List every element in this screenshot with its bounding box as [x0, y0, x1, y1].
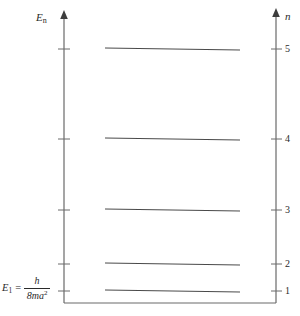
formula-equals-sign: =: [14, 283, 22, 294]
energy-level-line-5: [105, 48, 240, 50]
energy-axis-arrowhead: [60, 10, 68, 19]
quantum-number-tick-label-4: 4: [285, 134, 290, 144]
energy-level-line-4: [105, 138, 240, 140]
diagram-canvas: [0, 0, 300, 316]
quantum-number-tick-label-1: 1: [285, 286, 290, 296]
energy-level-line-2: [105, 263, 240, 265]
quantum-number-tick-label-2: 2: [285, 259, 290, 269]
energy-axis-label: En: [36, 12, 47, 25]
formula-denominator-exponent: 2: [44, 289, 48, 297]
energy-level-diagram: En n 5 4 3 2 1 E1 = h 8ma2: [0, 0, 300, 316]
formula-denominator: 8ma2: [25, 289, 50, 302]
energy-level-line-1: [105, 290, 240, 292]
ground-state-energy-formula: E1 = h 8ma2: [2, 276, 50, 301]
quantum-number-axis: [272, 8, 280, 303]
formula-lhs: E1: [2, 283, 12, 295]
formula-lhs-subscript: 1: [8, 286, 12, 295]
energy-axis-label-subscript: n: [43, 16, 47, 25]
quantum-number-axis-arrowhead: [272, 8, 280, 17]
energy-axis: [60, 10, 68, 303]
energy-axis-label-symbol: E: [36, 11, 43, 23]
energy-level-line-3: [105, 209, 240, 211]
quantum-number-axis-label: n: [285, 11, 291, 22]
formula-denominator-base: 8ma: [27, 290, 44, 301]
formula-numerator: h: [32, 276, 43, 288]
energy-levels: [105, 48, 240, 292]
formula-fraction: h 8ma2: [24, 276, 50, 301]
quantum-number-tick-label-5: 5: [285, 44, 290, 54]
quantum-number-tick-label-3: 3: [285, 205, 290, 215]
